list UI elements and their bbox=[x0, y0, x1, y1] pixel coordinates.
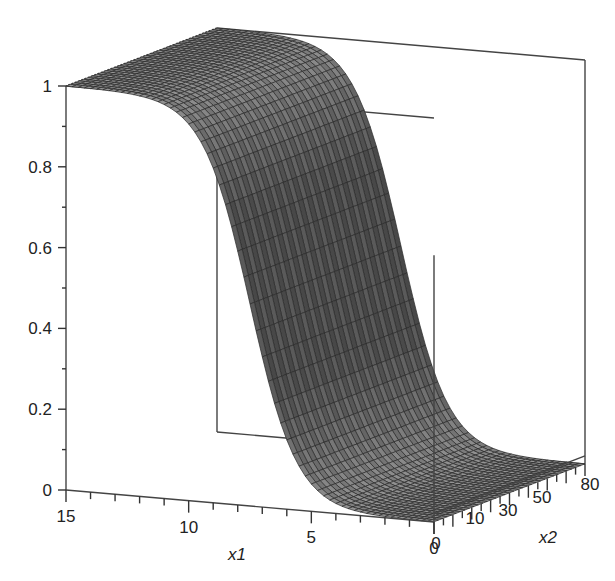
z-tick-label: 0.6 bbox=[28, 239, 52, 258]
x2-tick-label: 80 bbox=[581, 475, 600, 494]
z-tick-label: 0.4 bbox=[28, 319, 52, 338]
x1-tick-label: 5 bbox=[307, 528, 316, 547]
x2-tick-label: 30 bbox=[499, 501, 518, 520]
z-axis: 00.20.40.60.81 bbox=[28, 77, 66, 500]
x1-axis-label: x1 bbox=[227, 545, 246, 564]
x1-tick-label: 10 bbox=[179, 518, 198, 537]
x2-tick-label: 10 bbox=[466, 509, 485, 528]
z-tick-label: 1 bbox=[43, 77, 52, 96]
x2-tick-label: 50 bbox=[533, 488, 552, 507]
x2-axis-label: x2 bbox=[538, 528, 558, 547]
z-tick-label: 0.8 bbox=[28, 158, 52, 177]
surface-plot: 00.20.40.60.81 151050 010305080 x1 x2 bbox=[0, 0, 615, 581]
x1-tick-label: 15 bbox=[57, 507, 76, 526]
sigmoid-surface bbox=[66, 28, 585, 522]
z-tick-label: 0.2 bbox=[28, 400, 52, 419]
z-tick-label: 0 bbox=[43, 481, 52, 500]
x2-tick-label: 0 bbox=[431, 534, 440, 553]
